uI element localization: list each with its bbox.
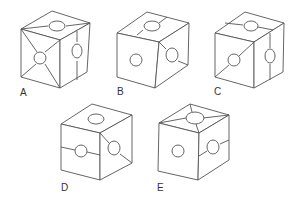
label-d: D xyxy=(61,182,68,193)
cube-d xyxy=(61,104,132,180)
cube-e xyxy=(158,104,229,180)
label-b: B xyxy=(117,86,124,97)
label-a: A xyxy=(20,87,27,98)
label-e: E xyxy=(157,182,164,193)
cube-a xyxy=(21,11,90,88)
cube-diagram xyxy=(0,0,302,200)
label-c: C xyxy=(214,86,221,97)
cube-b xyxy=(117,12,189,88)
cube-c xyxy=(215,12,284,88)
